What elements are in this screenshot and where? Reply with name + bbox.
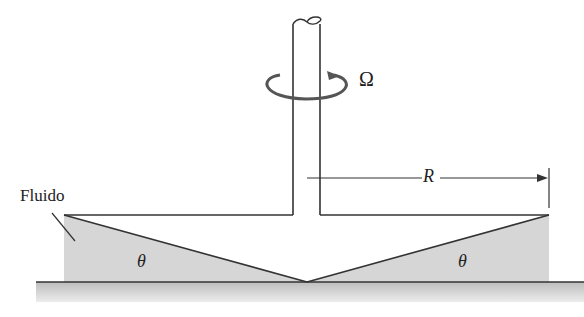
radius-label: R: [423, 166, 434, 187]
rotation-arrow-icon: [267, 75, 346, 99]
rotation-arrowhead-icon: [327, 71, 340, 80]
radius-arrowhead-icon: [537, 174, 548, 182]
base-plate: [36, 282, 584, 302]
omega-label: Ω: [359, 68, 374, 91]
shaft-break-icon: [293, 17, 321, 24]
angle-label-right: θ: [458, 251, 467, 272]
cone-plate-diagram: [0, 0, 584, 317]
angle-label-left: θ: [137, 251, 146, 272]
fluid-label: Fluido: [20, 186, 64, 206]
